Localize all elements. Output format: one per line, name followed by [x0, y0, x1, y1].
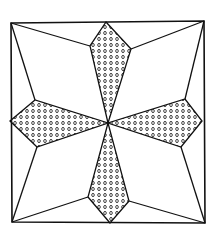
quilt-block-diagram — [0, 0, 215, 233]
corner-line — [12, 147, 37, 222]
kite-left — [10, 100, 108, 147]
kite-shapes — [10, 22, 202, 223]
corner-line — [131, 21, 204, 49]
corner-line — [12, 197, 88, 222]
kite-right — [108, 99, 202, 147]
corner-line — [129, 201, 205, 223]
corner-line — [11, 23, 35, 100]
corner-line — [181, 147, 205, 223]
kite-bottom — [88, 123, 129, 223]
kite-top — [90, 22, 131, 123]
corner-line — [11, 23, 90, 46]
corner-line — [185, 21, 204, 99]
